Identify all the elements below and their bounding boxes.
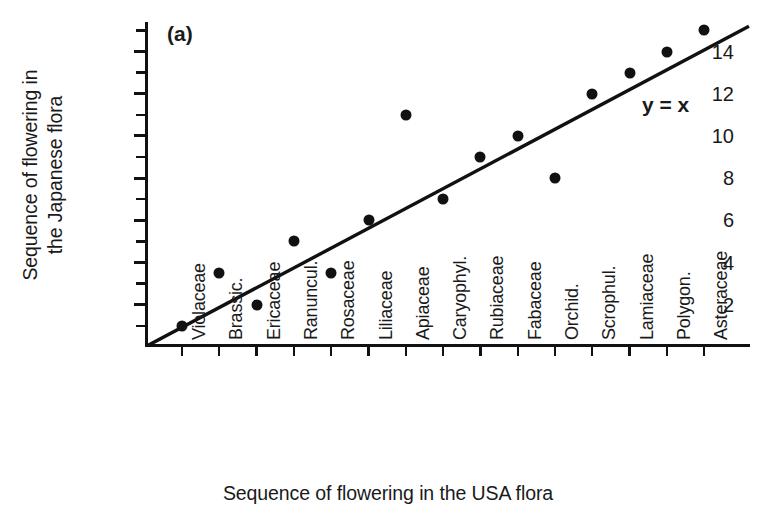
plot-area: 2468101214 ViolaceaeBrassic.EricaceaeRan…	[145, 22, 750, 347]
x-axis-tick	[703, 347, 705, 356]
y-axis-tick-minor	[136, 282, 145, 284]
x-axis-tick	[442, 347, 444, 356]
y-axis-title-line2: the Japanese flora	[43, 69, 68, 280]
x-axis-tick	[628, 347, 630, 356]
data-point	[550, 173, 561, 184]
chart-figure: Sequence of flowering in the Japanese fl…	[0, 0, 776, 528]
x-axis-tick-label: Ericaceae	[264, 262, 285, 340]
x-axis-tick-label: Brassic.	[226, 278, 247, 340]
y-axis-tick-minor	[136, 325, 145, 327]
y-axis-title-line1: Sequence of flowering in	[18, 69, 43, 280]
x-axis-tick	[554, 347, 556, 356]
x-axis-tick	[367, 347, 369, 356]
data-point	[400, 109, 411, 120]
x-axis-tick-label: Violaceae	[189, 263, 210, 340]
y-axis-tick-minor	[136, 114, 145, 116]
x-axis-tick	[255, 347, 257, 356]
y-axis-tick-major	[134, 92, 145, 95]
x-axis-tick	[330, 347, 332, 356]
y-axis-tick-minor	[136, 71, 145, 73]
x-axis-tick	[218, 347, 220, 356]
x-axis-tick-label: Fabaceae	[525, 262, 546, 340]
identity-line-label: y = x	[642, 93, 689, 117]
y-axis-tick-label: 14	[694, 40, 734, 63]
data-point	[214, 268, 225, 279]
y-axis-tick-major	[134, 219, 145, 222]
y-axis-tick-major	[134, 50, 145, 53]
data-point	[326, 268, 337, 279]
y-axis-title: Sequence of flowering in the Japanese fl…	[6, 0, 80, 350]
data-point	[363, 215, 374, 226]
data-point	[288, 236, 299, 247]
x-axis-tick	[591, 347, 593, 356]
x-axis-tick	[293, 347, 295, 356]
data-point	[661, 46, 672, 57]
x-axis-tick-label: Orchid.	[562, 283, 583, 340]
x-axis-tick	[479, 347, 481, 356]
data-point	[624, 67, 635, 78]
x-axis-tick-label: Asteraceae	[711, 251, 732, 340]
data-point	[438, 194, 449, 205]
x-axis-tick-label: Rosaceae	[338, 261, 359, 340]
x-axis-tick	[517, 347, 519, 356]
y-axis-tick-label: 8	[694, 167, 734, 190]
y-axis-tick-label: 10	[694, 124, 734, 147]
panel-label: (a)	[167, 22, 193, 46]
y-axis-tick-major	[134, 177, 145, 180]
y-axis-tick-label: 6	[694, 209, 734, 232]
y-axis-tick-major	[134, 303, 145, 306]
x-axis-tick-label: Rubiaceae	[487, 256, 508, 340]
data-point	[475, 152, 486, 163]
x-axis-tick-label: Apiaceae	[413, 267, 434, 340]
x-axis-tick-label: Scrophul.	[599, 266, 620, 340]
data-point	[587, 88, 598, 99]
data-point	[512, 130, 523, 141]
data-point	[699, 25, 710, 36]
x-axis-tick-label: Polygon.	[674, 272, 695, 340]
x-axis-tick	[405, 347, 407, 356]
data-point	[177, 320, 188, 331]
x-axis-tick-label: Ranuncul.	[301, 261, 322, 340]
x-axis-tick	[181, 347, 183, 356]
y-axis-line	[145, 22, 148, 347]
x-axis-line	[145, 344, 750, 347]
y-axis-tick-major	[134, 134, 145, 137]
x-axis-title: Sequence of flowering in the USA flora	[0, 482, 776, 505]
y-axis-tick-label: 12	[694, 82, 734, 105]
y-axis-tick-major	[134, 261, 145, 264]
x-axis-tick-label: Liliaceae	[376, 271, 397, 340]
y-axis-tick-minor	[136, 156, 145, 158]
data-point	[251, 299, 262, 310]
x-axis-tick-label: Caryophyl.	[450, 256, 471, 340]
x-axis-tick-label: Lamiaceae	[637, 254, 658, 340]
x-axis-tick	[666, 347, 668, 356]
y-axis-tick-minor	[136, 240, 145, 242]
y-axis-tick-minor	[136, 29, 145, 31]
y-axis-tick-minor	[136, 198, 145, 200]
